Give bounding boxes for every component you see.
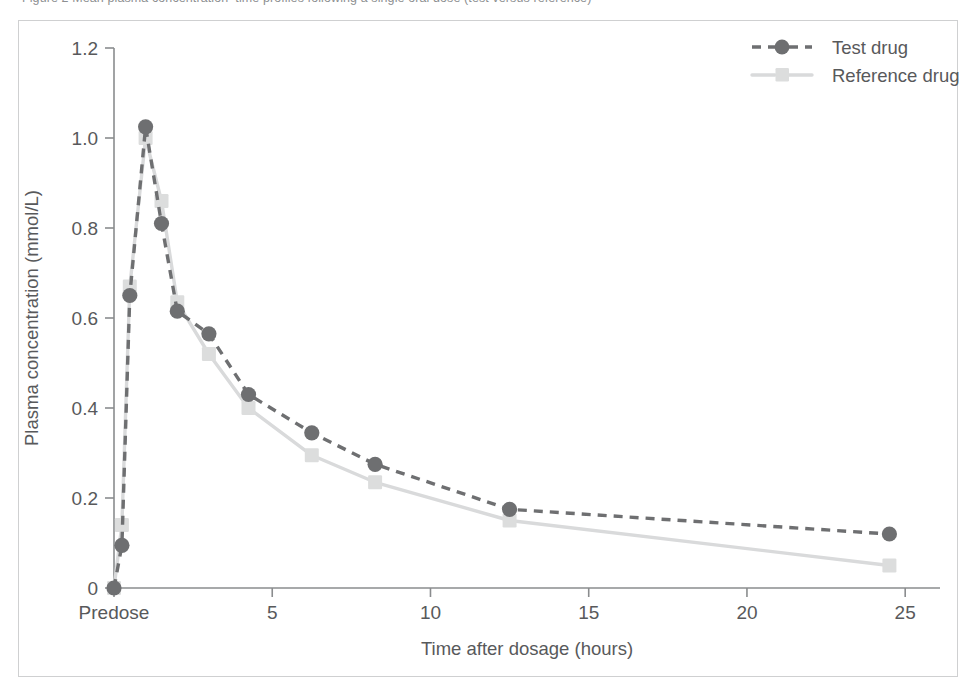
figure-frame — [18, 20, 958, 677]
figure-caption-text: Figure 2 Mean plasma concentration–time … — [22, 0, 591, 5]
figure-caption-strip: Figure 2 Mean plasma concentration–time … — [0, 0, 976, 14]
